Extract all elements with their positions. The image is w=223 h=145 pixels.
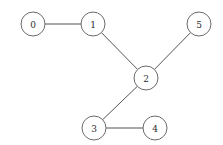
graph-node-label-4: 4 bbox=[152, 124, 158, 134]
graph-node-5[interactable]: 5 bbox=[187, 12, 211, 36]
graph-node-3[interactable]: 3 bbox=[82, 116, 106, 140]
graph-node-label-3: 3 bbox=[91, 124, 97, 134]
graph-edge-1-2 bbox=[101, 33, 137, 70]
graph-edge-2-5 bbox=[154, 33, 190, 70]
edge-layer bbox=[45, 24, 191, 128]
graph-node-label-2: 2 bbox=[143, 74, 149, 84]
node-layer: 012345 bbox=[21, 12, 211, 140]
graph-node-label-1: 1 bbox=[90, 20, 96, 30]
graph-node-2[interactable]: 2 bbox=[134, 66, 158, 90]
graph-node-0[interactable]: 0 bbox=[21, 12, 45, 36]
graph-node-1[interactable]: 1 bbox=[81, 12, 105, 36]
graph-node-label-0: 0 bbox=[30, 20, 36, 30]
graph-diagram: 012345 bbox=[0, 0, 223, 145]
graph-node-label-5: 5 bbox=[196, 20, 202, 30]
graph-node-4[interactable]: 4 bbox=[143, 116, 167, 140]
graph-svg-surface: 012345 bbox=[0, 0, 223, 145]
graph-edge-2-3 bbox=[103, 86, 138, 119]
